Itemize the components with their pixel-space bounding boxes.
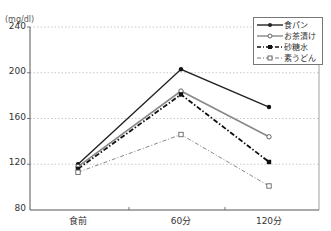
legend-line-solid-dot-icon [256,20,284,30]
legend-line-dashdot-square-icon [256,42,284,52]
y-tick-200: 200 [0,66,26,76]
x-tick-120min: 120分 [244,214,294,227]
y-tick-120: 120 [0,157,26,167]
x-tick-before-meal: 食前 [53,214,103,227]
chart-legend: 食パン お茶漬け 砂糖水 素うどん [253,17,323,65]
x-tick-60min: 60分 [156,214,206,227]
y-tick-240: 240 [0,21,26,31]
legend-line-open-circle-icon [256,31,284,41]
blood-glucose-line-chart: (mg/dl) 240 200 160 120 80 食前 60分 120分 食… [0,0,331,231]
y-tick-80: 80 [0,203,26,213]
legend-line-dashdot-open-square-icon [256,53,284,63]
y-tick-160: 160 [0,112,26,122]
legend-item-udon: 素うどん [254,53,322,64]
